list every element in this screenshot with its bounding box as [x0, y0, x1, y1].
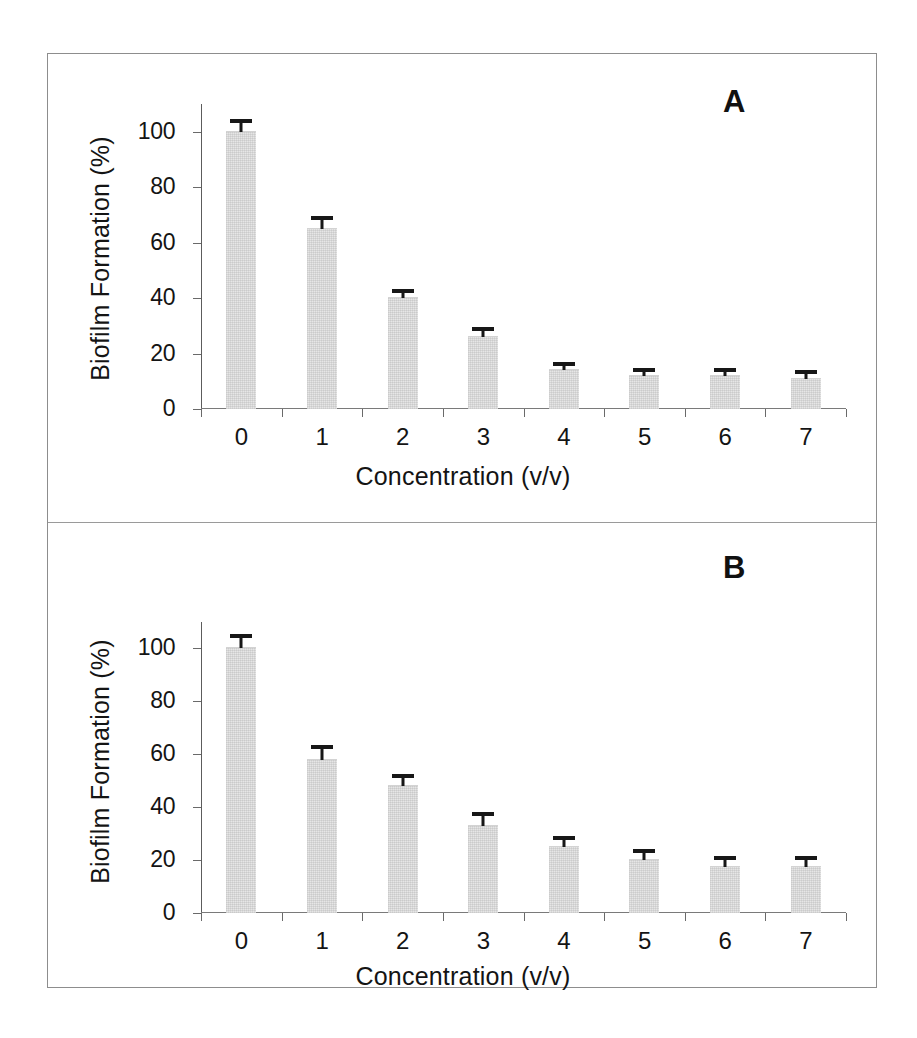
panel-a-error-bar: [643, 372, 646, 376]
panel-b-y-tick: [193, 701, 201, 702]
panel-a-y-tick-label: 40: [150, 284, 175, 311]
panel-a-error-cap: [230, 119, 252, 123]
panel-a-bar: [388, 297, 418, 409]
panel-b-y-tick-label: 0: [163, 899, 176, 926]
panel-a-y-axis-title: Biofilm Formation (%): [86, 109, 115, 409]
panel-a-y-tick-label: 0: [163, 395, 176, 422]
panel-b-x-tick: [765, 913, 766, 921]
panel-a-error-cap: [311, 216, 333, 220]
panel-b-x-tick-label: 0: [235, 927, 248, 955]
panel-a-error-cap: [392, 289, 414, 293]
panel-a-error-cap: [633, 368, 655, 372]
panel-a-x-tick-label: 0: [235, 423, 248, 451]
panel-a-x-tick-label: 5: [638, 423, 651, 451]
panel-b-error-bar: [320, 749, 323, 760]
panel-a-error-cap: [714, 368, 736, 372]
panel-b-y-tick-label: 40: [150, 793, 175, 820]
panel-b-error-cap: [633, 849, 655, 853]
panel-b: B Biofilm Formation (%) 0204060801000123…: [48, 522, 878, 989]
panel-a-x-tick: [362, 409, 363, 417]
panel-a-error-bar: [240, 123, 243, 131]
panel-a-x-tick: [685, 409, 686, 417]
panel-b-x-tick: [282, 913, 283, 921]
panel-b-bar: [549, 846, 579, 913]
panel-b-x-tick-label: 6: [719, 927, 732, 955]
panel-b-x-axis-title: Concentration (v/v): [48, 962, 878, 991]
panel-a-y-tick-label: 60: [150, 229, 175, 256]
panel-b-error-cap: [714, 856, 736, 860]
panel-b-x-tick-label: 2: [396, 927, 409, 955]
panel-a-x-tick: [524, 409, 525, 417]
panel-b-error-bar: [804, 860, 807, 867]
panel-a-x-tick-label: 3: [477, 423, 490, 451]
panel-a-y-tick-label: 80: [150, 173, 175, 200]
panel-a-y-tick-label: 20: [150, 339, 175, 366]
panel-a-bar: [549, 369, 579, 409]
panel-a-bar: [226, 131, 256, 409]
panel-b-y-axis: [201, 622, 202, 913]
panel-b-y-tick-label: 80: [150, 687, 175, 714]
panel-a-bar: [791, 378, 821, 410]
panel-b-y-tick-label: 20: [150, 846, 175, 873]
panel-b-y-tick-label: 60: [150, 740, 175, 767]
panel-b-error-bar: [643, 853, 646, 860]
panel-a-bar: [468, 336, 498, 409]
panel-b-error-bar: [724, 860, 727, 867]
panel-b-bar: [388, 785, 418, 913]
panel-b-y-tick: [193, 754, 201, 755]
panel-a-error-bar: [401, 293, 404, 299]
panel-a: A Biofilm Formation (%) 0204060801000123…: [48, 54, 878, 522]
panel-a-y-axis: [201, 104, 202, 409]
panel-a-bar: [710, 375, 740, 409]
panel-a-y-tick-label: 100: [138, 118, 175, 145]
panel-b-x-tick: [443, 913, 444, 921]
panel-a-x-tick: [282, 409, 283, 417]
panel-b-bar: [710, 866, 740, 913]
panel-b-error-bar: [562, 840, 565, 847]
panel-b-error-cap: [311, 745, 333, 749]
panel-b-plot-area: 02040608010001234567: [201, 622, 846, 913]
panel-b-letter: B: [723, 550, 745, 586]
panel-a-x-tick-label: 2: [396, 423, 409, 451]
panel-a-x-tick: [443, 409, 444, 417]
panel-b-bar: [468, 825, 498, 913]
panel-b-x-tick-label: 5: [638, 927, 651, 955]
panel-a-x-tick-label: 4: [557, 423, 570, 451]
panel-a-y-tick: [193, 354, 201, 355]
panel-b-y-tick-label: 100: [138, 634, 175, 661]
panel-a-x-tick: [604, 409, 605, 417]
panel-b-x-tick: [846, 913, 847, 921]
panel-a-x-tick: [846, 409, 847, 417]
panel-b-y-tick: [193, 807, 201, 808]
panel-a-error-bar: [562, 366, 565, 370]
panel-a-error-bar: [482, 331, 485, 337]
panel-a-x-axis-title: Concentration (v/v): [48, 462, 878, 491]
panel-b-error-bar: [482, 816, 485, 825]
panel-a-bar: [629, 375, 659, 409]
panel-a-y-tick: [193, 298, 201, 299]
panel-b-error-cap: [553, 836, 575, 840]
panel-b-error-cap: [230, 634, 252, 638]
panel-a-error-cap: [553, 362, 575, 366]
panel-b-x-tick-label: 3: [477, 927, 490, 955]
figure-frame: A Biofilm Formation (%) 0204060801000123…: [47, 53, 877, 988]
panel-b-y-tick: [193, 913, 201, 914]
panel-a-error-bar: [320, 220, 323, 228]
panel-b-y-tick: [193, 860, 201, 861]
panel-a-plot-area: 02040608010001234567: [201, 104, 846, 409]
panel-a-x-tick: [765, 409, 766, 417]
panel-a-error-bar: [724, 372, 727, 376]
panel-b-x-tick: [524, 913, 525, 921]
panel-b-x-tick-label: 1: [315, 927, 328, 955]
panel-b-error-bar: [401, 778, 404, 786]
panel-a-bar: [307, 228, 337, 409]
panel-b-x-tick-label: 4: [557, 927, 570, 955]
panel-a-x-tick-label: 6: [719, 423, 732, 451]
panel-a-error-bar: [804, 374, 807, 378]
panel-b-y-axis-title: Biofilm Formation (%): [86, 612, 115, 912]
panel-a-error-cap: [795, 370, 817, 374]
panel-a-error-cap: [472, 327, 494, 331]
panel-b-x-tick: [201, 913, 202, 921]
panel-a-y-tick: [193, 409, 201, 410]
panel-a-x-tick: [201, 409, 202, 417]
